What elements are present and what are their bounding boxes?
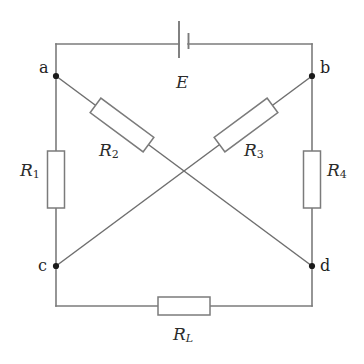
circuit-diagram: a b c d E R1 R2 R3 R4 RL [0, 0, 364, 364]
resistor-label-r1-subscript: 1 [33, 168, 40, 181]
resistor-label-rl-subscript: L [186, 332, 193, 345]
node-label-a: a [39, 60, 49, 76]
node-dot-d [309, 263, 315, 269]
node-dot-c [53, 263, 59, 269]
resistor-label-r1-base: R [20, 160, 33, 180]
node-label-b: b [320, 60, 330, 76]
node-dot-a [53, 73, 59, 79]
resistor-label-r2: R2 [99, 142, 119, 160]
resistor-label-rl-base: R [173, 324, 186, 344]
resistor-r1-body [48, 151, 65, 208]
resistor-rl-body [158, 297, 210, 315]
node-label-c: c [38, 258, 47, 274]
resistor-label-r3: R3 [244, 142, 264, 160]
resistor-label-rl: RL [173, 326, 193, 344]
resistor-label-r4-subscript: 4 [340, 168, 347, 181]
resistor-label-r3-base: R [244, 140, 257, 160]
resistor-label-r1: R1 [20, 162, 40, 180]
source-label-e: E [176, 74, 188, 91]
resistor-label-r4: R4 [327, 162, 347, 180]
node-dot-b [309, 73, 315, 79]
resistor-r4-body [304, 151, 321, 208]
node-label-d: d [320, 258, 330, 274]
resistor-label-r4-base: R [327, 160, 340, 180]
resistor-label-r2-base: R [99, 140, 112, 160]
circuit-schematic-canvas [0, 0, 364, 364]
resistor-label-r2-subscript: 2 [112, 148, 119, 161]
resistor-label-r3-subscript: 3 [257, 148, 264, 161]
